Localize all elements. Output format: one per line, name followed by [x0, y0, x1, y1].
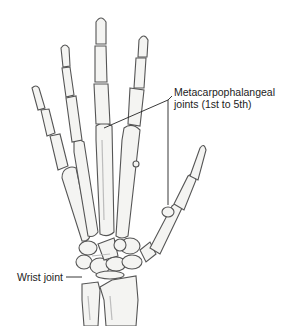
- forearm-bones: [82, 276, 138, 326]
- ulna-bone: [82, 282, 100, 326]
- radius-bone: [100, 276, 138, 326]
- second-digit: [116, 36, 148, 238]
- mcp-joints-label: Metacarpophalangeal joints (1st to 5th): [174, 86, 275, 110]
- first-digit-thumb: [150, 145, 206, 254]
- wrist-joint-label: Wrist joint: [17, 271, 63, 283]
- mcp-label-line2: joints (1st to 5th): [174, 98, 275, 110]
- hand-anatomy-figure: .b { fill: #f4f4f2; stroke: #555; stroke…: [0, 0, 288, 326]
- third-digit: [94, 18, 114, 236]
- carpal-bones: [76, 238, 156, 279]
- mcp-label-line1: Metacarpophalangeal: [174, 86, 275, 98]
